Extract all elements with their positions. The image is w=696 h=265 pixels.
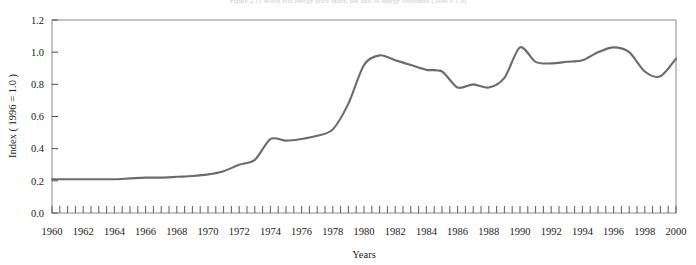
x-tick-label: 1996 (603, 226, 624, 237)
x-tick-label: 1968 (166, 226, 187, 237)
x-tick-label: 1984 (416, 226, 438, 237)
x-tick-label: 1972 (229, 226, 250, 237)
y-tick-label: 0.4 (31, 143, 45, 154)
x-tick-label: 2000 (666, 226, 687, 237)
x-tick-label: 1982 (385, 226, 406, 237)
x-tick-label: 1992 (541, 226, 562, 237)
x-tick-label: 1990 (510, 226, 531, 237)
y-axis: 0.00.20.40.60.81.01.2 (31, 15, 58, 219)
y-tick-label: 0.8 (31, 79, 44, 90)
x-tick-label: 1998 (634, 226, 655, 237)
x-tick-label: 1974 (260, 226, 282, 237)
data-series-line (52, 47, 676, 179)
figure-container: Figure 2.11 World real energy price inde… (0, 0, 696, 265)
x-axis-minor-ticks (52, 206, 676, 213)
x-tick-label: 1960 (42, 226, 63, 237)
y-tick-label: 1.2 (31, 15, 44, 26)
x-tick-label: 1962 (73, 226, 94, 237)
x-axis-title: Years (352, 249, 375, 260)
x-tick-label: 1978 (322, 226, 343, 237)
chart-canvas: 0.00.20.40.60.81.01.2 196019621964196619… (0, 0, 696, 265)
x-axis: 1960196219641966196819701972197419761978… (42, 226, 687, 237)
x-tick-label: 1988 (478, 226, 499, 237)
plot-frame (52, 20, 676, 213)
x-tick-label: 1976 (291, 226, 312, 237)
y-tick-label: 0.2 (31, 176, 44, 187)
x-tick-label: 1966 (135, 226, 156, 237)
x-tick-label: 1964 (104, 226, 126, 237)
x-tick-label: 1986 (447, 226, 468, 237)
y-tick-label: 1.0 (31, 47, 44, 58)
x-tick-label: 1980 (354, 226, 375, 237)
y-tick-label: 0.0 (31, 208, 44, 219)
y-axis-title: Index ( 1996 = 1.0 ) (7, 73, 19, 158)
x-tick-label: 1994 (572, 226, 594, 237)
x-tick-label: 1970 (198, 226, 219, 237)
y-tick-label: 0.6 (31, 111, 44, 122)
